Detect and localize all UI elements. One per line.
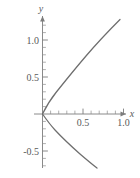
plot-svg: 0.5 1.0 0.5 1.0 -0.5 x y [0, 0, 140, 178]
y-tick-label-05: 0.5 [27, 72, 40, 83]
x-tick-label-10: 1.0 [117, 117, 130, 128]
plot-container: 0.5 1.0 0.5 1.0 -0.5 x y [0, 0, 140, 178]
axes-group [34, 16, 126, 168]
y-tick-label-10: 1.0 [27, 35, 40, 46]
curves-group [43, 20, 121, 169]
x-axis-label: x [129, 108, 135, 119]
y-tick-label-neg05: -0.5 [23, 146, 39, 157]
tick-labels-group: 0.5 1.0 0.5 1.0 -0.5 [23, 35, 130, 157]
y-axis-arrow-icon [40, 16, 45, 22]
x-tick-label-05: 0.5 [77, 117, 90, 128]
x-axis-ticks [51, 109, 124, 114]
curve-upper-branch [43, 20, 121, 115]
axis-names-group: x y [38, 3, 135, 119]
y-axis-ticks [43, 25, 48, 166]
y-axis-label: y [38, 3, 44, 14]
